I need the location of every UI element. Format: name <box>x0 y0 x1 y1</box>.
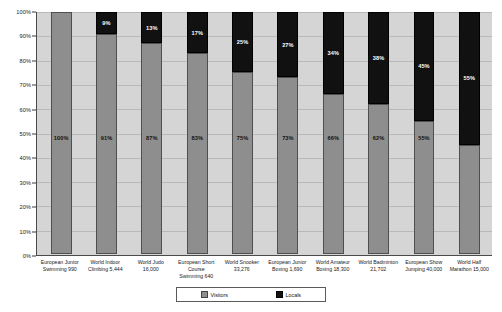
bar-segment-visitors[interactable]: 75% <box>232 72 253 253</box>
bar-group[interactable]: 9%91% <box>84 12 129 254</box>
y-axis-tick-label: 60% <box>20 107 32 113</box>
bar-series-container: 100%9%91%13%87%17%83%25%75%27%73%34%66%3… <box>39 12 493 254</box>
bar-value-label: 91% <box>101 135 113 141</box>
legend-item-visitors[interactable]: Visitors <box>201 291 228 298</box>
legend-item-locals[interactable]: Locals <box>276 291 301 298</box>
bar-group[interactable]: 38%62% <box>356 12 401 254</box>
x-axis-label-line: European Show <box>402 259 446 266</box>
bar-stack[interactable]: 27%73% <box>277 12 298 254</box>
bar-value-label: 34% <box>327 50 339 56</box>
bar-segment-locals[interactable]: 17% <box>187 12 208 53</box>
bar-stack[interactable]: 13%87% <box>141 12 162 254</box>
x-axis-label: World Badminton21,702 <box>356 259 402 280</box>
y-axis-tick-label: 80% <box>20 58 32 64</box>
x-axis-label-line: Marathon 15,000 <box>448 266 492 273</box>
bar-value-label: 100% <box>54 135 69 141</box>
legend-swatch-icon <box>201 291 208 298</box>
y-axis-tick-label: 20% <box>20 204 32 210</box>
x-axis-label: European ShowJumping 40,000 <box>401 259 447 280</box>
plot-area: 100%9%91%13%87%17%83%25%75%27%73%34%66%3… <box>36 12 492 256</box>
x-axis-label-line: 33,276 <box>220 266 264 273</box>
bar-value-label: 38% <box>373 55 385 61</box>
bar-group[interactable]: 34%66% <box>311 12 356 254</box>
bar-group[interactable]: 100% <box>39 12 84 254</box>
bar-segment-locals[interactable]: 27% <box>277 12 298 77</box>
bar-value-label: 66% <box>327 135 339 141</box>
bar-stack[interactable]: 9%91% <box>96 12 117 254</box>
bar-segment-locals[interactable]: 9% <box>96 12 117 34</box>
y-axis-tick-label: 40% <box>20 155 32 161</box>
bar-segment-visitors[interactable]: 87% <box>141 43 162 253</box>
x-axis-label-line: Jumping 40,000 <box>402 266 446 273</box>
y-axis-tick-label: 100% <box>16 9 31 15</box>
bar-segment-visitors[interactable]: 55% <box>414 121 435 254</box>
chart-legend: VisitorsLocals <box>176 287 326 302</box>
bar-group[interactable]: 45%55% <box>401 12 446 254</box>
bar-group[interactable]: 25%75% <box>220 12 265 254</box>
x-axis-label: World AmateurBoxing 18,300 <box>310 259 356 280</box>
bar-value-label: 55% <box>418 135 430 141</box>
bar-group[interactable]: 13%87% <box>129 12 174 254</box>
bar-value-label: 27% <box>282 42 294 48</box>
bar-value-label: 55% <box>464 75 476 81</box>
bar-stack[interactable]: 34%66% <box>323 12 344 254</box>
bar-segment-locals[interactable]: 38% <box>368 12 389 104</box>
bar-segment-visitors[interactable]: 62% <box>368 104 389 254</box>
x-axis-label-line: Swimming 990 <box>38 266 82 273</box>
bar-segment-visitors[interactable]: 45% <box>459 145 480 254</box>
legend-label: Visitors <box>210 292 228 298</box>
x-axis-label-line: Boxing 18,300 <box>311 266 355 273</box>
x-axis-label: World IndoorClimbing 5,444 <box>83 259 129 280</box>
bar-value-label: 75% <box>237 135 249 141</box>
bar-value-label: 45% <box>464 136 476 142</box>
bar-segment-locals[interactable]: 25% <box>232 12 253 72</box>
stacked-bar-chart: 0%10%20%30%40%50%60%70%80%90%100% 100%9%… <box>0 0 502 312</box>
bar-segment-locals[interactable]: 34% <box>323 12 344 94</box>
x-axis-label: World Snooker33,276 <box>219 259 265 280</box>
bar-segment-visitors[interactable]: 83% <box>187 53 208 253</box>
bar-group[interactable]: 55%45% <box>447 12 492 254</box>
x-axis-label-line: World Judo <box>129 259 173 266</box>
bar-stack[interactable]: 55%45% <box>459 12 480 254</box>
bar-value-label: 13% <box>146 25 158 31</box>
bar-segment-locals[interactable]: 45% <box>414 12 435 121</box>
x-axis-label-line: European Junior <box>266 259 310 266</box>
bar-value-label: 73% <box>282 135 294 141</box>
x-axis-label-line: Climbing 5,444 <box>84 266 128 273</box>
bar-value-label: 45% <box>418 63 430 69</box>
x-axis-label: World Judo16,000 <box>128 259 174 280</box>
x-axis-label-line: World Indoor <box>84 259 128 266</box>
y-axis: 0%10%20%30%40%50%60%70%80%90%100% <box>0 12 36 256</box>
x-axis-label: European JuniorSwimming 990 <box>37 259 83 280</box>
bar-value-label: 9% <box>102 20 110 26</box>
x-axis-label-line: Swimming 640 <box>175 273 219 280</box>
bar-segment-visitors[interactable]: 100% <box>51 12 72 254</box>
bar-segment-visitors[interactable]: 91% <box>96 34 117 254</box>
bar-segment-visitors[interactable]: 66% <box>323 94 344 253</box>
x-axis-label-line: Boxing 1,690 <box>266 266 310 273</box>
bar-value-label: 17% <box>191 30 203 36</box>
bar-value-label: 62% <box>373 135 385 141</box>
x-axis-label-line: European Junior <box>38 259 82 266</box>
bar-stack[interactable]: 45%55% <box>414 12 435 254</box>
x-axis-label-line: European Short <box>175 259 219 266</box>
bar-segment-locals[interactable]: 55% <box>459 12 480 145</box>
bar-segment-visitors[interactable]: 73% <box>277 77 298 253</box>
y-axis-tick-label: 70% <box>20 82 32 88</box>
bar-stack[interactable]: 100% <box>51 12 72 254</box>
x-axis-label: World HalfMarathon 15,000 <box>447 259 493 280</box>
x-axis-label-line: World Badminton <box>357 259 401 266</box>
x-axis-label: European ShortCourseSwimming 640 <box>174 259 220 280</box>
y-axis-tick-label: 50% <box>20 131 32 137</box>
bar-group[interactable]: 27%73% <box>265 12 310 254</box>
x-axis-label-line: 16,000 <box>129 266 173 273</box>
y-axis-tick-label: 30% <box>20 180 32 186</box>
legend-swatch-icon <box>276 291 283 298</box>
x-axis-label-line: World Half <box>448 259 492 266</box>
bar-group[interactable]: 17%83% <box>175 12 220 254</box>
bar-segment-locals[interactable]: 13% <box>141 12 162 43</box>
bar-stack[interactable]: 25%75% <box>232 12 253 254</box>
bar-stack[interactable]: 38%62% <box>368 12 389 254</box>
bar-stack[interactable]: 17%83% <box>187 12 208 254</box>
y-axis-tick-label: 90% <box>20 33 32 39</box>
